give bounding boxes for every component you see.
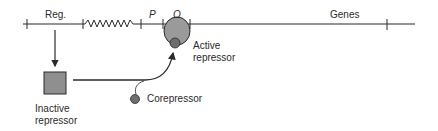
genes-label: Genes <box>330 9 359 21</box>
inactive-repressor-label-2: repressor <box>35 115 77 127</box>
promoter-label: P <box>149 9 156 21</box>
active-repressor-label-1: Active <box>193 40 220 52</box>
active-repressor-label-2: repressor <box>193 52 235 64</box>
operator-label: O <box>173 9 181 21</box>
inactive-repressor-shape <box>44 72 66 94</box>
corepressor-join-line <box>135 81 144 94</box>
inactive-repressor-label-1: Inactive <box>35 103 69 115</box>
corepressor-shape <box>131 95 140 104</box>
activation-arrow <box>73 53 173 80</box>
dna-line <box>23 20 415 27</box>
repressor-corepressor-diagram: Reg. P O Genes Active repressor Inactive… <box>0 0 438 131</box>
corepressor-label: Corepressor <box>147 93 202 105</box>
bound-corepressor-shape <box>170 38 180 48</box>
regulator-label: Reg. <box>45 9 66 21</box>
